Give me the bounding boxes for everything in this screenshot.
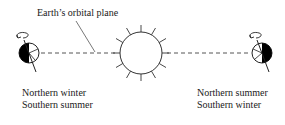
left-caption-line1: Northern winter [22,87,93,99]
left-caption-line2: Southern summer [22,99,93,111]
label-leader-line [76,21,95,52]
right-caption-line1: Northern summer [197,87,268,99]
right-caption-line2: Southern winter [197,99,268,111]
orbital-plane-label: Earth’s orbital plane [37,7,118,19]
right-earth-icon [250,32,272,72]
right-earth-caption: Northern summer Southern winter [197,87,268,111]
left-earth-icon [17,32,39,72]
left-earth-caption: Northern winter Southern summer [22,87,93,111]
sun-icon [113,25,169,81]
